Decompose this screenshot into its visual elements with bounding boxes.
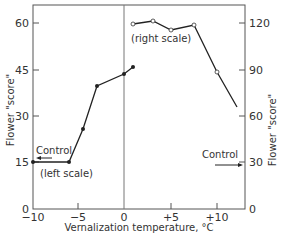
- svg-text:0: 0: [249, 203, 256, 216]
- right-axis-ticks: [239, 23, 245, 162]
- svg-text:Control: Control: [202, 149, 238, 160]
- svg-text:120: 120: [249, 17, 270, 30]
- right-scale-label: (right scale): [131, 33, 191, 44]
- svg-text:Control: Control: [36, 145, 72, 156]
- svg-text:−10: −10: [21, 211, 44, 224]
- x-axis-label: Vernalization temperature, °C: [64, 222, 213, 233]
- right-y-axis-label: Flower "score": [267, 94, 278, 166]
- left-y-axis-label: Flower "score": [5, 74, 16, 146]
- svg-text:45: 45: [15, 64, 29, 77]
- svg-text:30: 30: [249, 156, 263, 169]
- arrow-left-icon: [36, 156, 41, 160]
- control-left-annotation: Control: [36, 145, 72, 160]
- left-scale-label: (left scale): [40, 168, 93, 179]
- svg-text:60: 60: [249, 110, 263, 123]
- control-right-annotation: Control: [202, 149, 243, 167]
- left-axis-ticks: [33, 23, 39, 162]
- svg-text:90: 90: [249, 64, 263, 77]
- chart: 0 15 30 45 60 0 30 60 90 120 −10 −5 0 +5…: [0, 0, 281, 233]
- svg-text:30: 30: [15, 110, 29, 123]
- x-axis-ticks: [78, 203, 217, 209]
- left-tick-labels: 0 15 30 45 60: [15, 17, 29, 216]
- svg-text:15: 15: [15, 156, 29, 169]
- svg-text:60: 60: [15, 17, 29, 30]
- arrow-right-icon: [238, 163, 243, 167]
